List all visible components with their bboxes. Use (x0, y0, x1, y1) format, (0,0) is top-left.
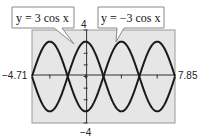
xmax-label: 7.85 (178, 70, 198, 81)
graph: −4.71 7.85 4 −4 y = 3 cos x y = −3 cos x (0, 0, 201, 139)
callout-3cos-text: y = 3 cos x (16, 11, 69, 25)
xmin-label: −4.71 (2, 70, 28, 81)
ymin-label: −4 (80, 127, 92, 138)
ymax-label: 4 (81, 19, 87, 30)
callout-neg3cos-text: y = −3 cos x (101, 11, 161, 25)
